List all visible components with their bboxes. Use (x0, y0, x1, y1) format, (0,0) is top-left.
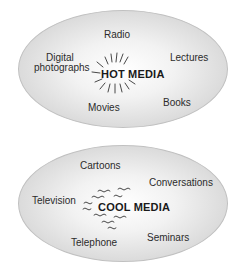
hot-item-radio: Radio (104, 29, 130, 40)
cool-media-title: COOL MEDIA (98, 201, 170, 213)
cool-item-conversations: Conversations (149, 177, 213, 188)
cool-item-television: Television (32, 195, 76, 206)
hot-item-digital-line2: photographs (34, 62, 90, 73)
hot-item-books: Books (163, 97, 191, 108)
hot-item-lectures: Lectures (170, 52, 208, 63)
hot-item-movies: Movies (88, 102, 120, 113)
cool-item-seminars: Seminars (147, 232, 189, 243)
cool-item-cartoons: Cartoons (80, 160, 121, 171)
hot-media-title: HOT MEDIA (101, 68, 165, 80)
cool-item-telephone: Telephone (71, 237, 117, 248)
